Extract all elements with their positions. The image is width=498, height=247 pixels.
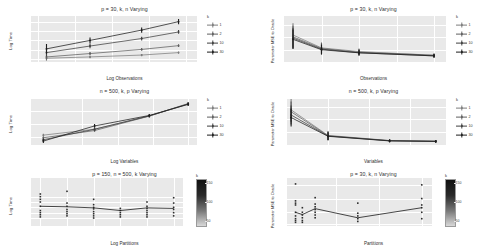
colorbar-legend: 15010050 — [445, 179, 471, 225]
legend-key — [207, 131, 218, 139]
series-line — [293, 39, 434, 56]
figure-grid: p = 30, k, n Varying Log Time Log Observ… — [0, 0, 498, 247]
plot-area: 40801200.00750.00500.00250.0000 — [287, 99, 446, 145]
x-axis-label: Observations — [249, 76, 498, 81]
legend-title: k — [207, 14, 224, 19]
legend-item[interactable]: 30 — [207, 131, 224, 140]
scatter-point — [120, 216, 122, 218]
x-axis-label: Partitions — [249, 241, 498, 246]
data-point — [94, 128, 96, 130]
series-line — [291, 112, 436, 142]
legend-key — [456, 104, 467, 112]
legend-title: k — [456, 97, 473, 102]
legend-key — [207, 104, 218, 112]
data-point — [42, 134, 44, 136]
data-point — [141, 38, 143, 40]
scatter-point — [421, 184, 423, 186]
legend-item-label: 10 — [469, 41, 473, 45]
legend-key — [456, 122, 467, 130]
data-point — [89, 45, 91, 47]
scatter-point — [93, 208, 95, 210]
scatter-point — [302, 217, 304, 219]
colorbar-tick-label: 50 — [456, 219, 460, 223]
scatter-point — [295, 204, 297, 206]
data-point — [327, 135, 329, 137]
legend-point-swatch — [211, 134, 213, 136]
scatter-point — [66, 213, 68, 215]
legend-point-swatch — [211, 125, 213, 127]
legend-item[interactable]: 1 — [207, 104, 224, 113]
colorbar-title: k — [445, 173, 447, 178]
scatter-point — [295, 215, 297, 217]
legend-item[interactable]: 1 — [456, 104, 473, 113]
panel-title: n = 500, k, p Varying — [249, 88, 498, 94]
scatter-point — [357, 215, 359, 217]
data-point — [435, 140, 437, 142]
data-point — [178, 21, 180, 23]
legend-item[interactable]: 10 — [207, 39, 224, 48]
plot-area: 25050075010000.0060.0040.002 — [284, 16, 446, 62]
legend-item[interactable]: 2 — [207, 30, 224, 39]
scatter-point — [93, 213, 95, 215]
legend-item-label: 30 — [220, 50, 224, 54]
data-point — [94, 125, 96, 127]
legend-item-label: 10 — [220, 124, 224, 128]
scatter-point — [314, 211, 316, 213]
legend-item[interactable]: 2 — [456, 113, 473, 122]
scatter-point — [314, 203, 316, 205]
scatter-point — [173, 215, 175, 217]
panel-mse-vs-observations: p = 30, k, n Varying Parameter MSE to Or… — [249, 0, 498, 82]
legend-item-label: 30 — [469, 50, 473, 54]
legend-item-label: 1 — [469, 23, 471, 27]
series-overlay — [284, 16, 446, 62]
data-point — [290, 117, 292, 119]
scatter-point — [66, 215, 68, 217]
colorbar-strip — [445, 179, 456, 227]
legend-item[interactable]: 10 — [207, 122, 224, 131]
legend-item[interactable]: 2 — [207, 113, 224, 122]
legend-item[interactable]: 10 — [456, 39, 473, 48]
legend-item[interactable]: 30 — [456, 131, 473, 140]
legend-item[interactable]: 30 — [456, 48, 473, 57]
scatter-point — [314, 206, 316, 208]
x-axis-label: Log Observations — [0, 76, 249, 81]
scatter-point — [173, 212, 175, 214]
data-point — [433, 55, 435, 57]
legend-key — [207, 39, 218, 47]
scatter-point — [173, 209, 175, 211]
scatter-point — [146, 216, 148, 218]
scatter-point — [66, 191, 68, 193]
legend-point-swatch — [211, 33, 213, 35]
scatter-point — [66, 209, 68, 211]
legend-item-label: 2 — [469, 115, 471, 119]
plot-area: 2345876 — [31, 99, 197, 145]
data-point — [389, 140, 391, 142]
scatter-point — [120, 214, 122, 216]
scatter-point — [120, 208, 122, 210]
scatter-point — [302, 211, 304, 213]
legend-item[interactable]: 2 — [456, 30, 473, 39]
scatter-point — [40, 216, 42, 218]
colorbar-tick-label: 150 — [456, 181, 462, 185]
legend: k 121030 — [207, 14, 224, 57]
colorbar-tick-mark — [205, 183, 207, 184]
legend-item[interactable]: 30 — [207, 48, 224, 57]
legend-point-swatch — [460, 42, 462, 44]
colorbar-tick-mark — [454, 183, 456, 184]
colorbar-tick-mark — [205, 221, 207, 222]
legend-item[interactable]: 10 — [456, 122, 473, 131]
legend-item-label: 2 — [220, 32, 222, 36]
scatter-point — [302, 207, 304, 209]
panel-title: n = 500, k, p Varying — [0, 88, 249, 94]
legend-key — [207, 30, 218, 38]
data-point — [141, 54, 143, 56]
legend-item[interactable]: 1 — [207, 21, 224, 30]
scatter-point — [295, 183, 297, 185]
panel-mse-vs-partitions: p = 30, k, n Varying Parameter MSE to Or… — [249, 165, 498, 247]
scatter-point — [421, 204, 423, 206]
scatter-point — [146, 205, 148, 207]
x-axis-label: Log Partitions — [0, 241, 249, 246]
scatter-point — [314, 214, 316, 216]
legend-item[interactable]: 1 — [456, 21, 473, 30]
series-line — [46, 46, 178, 57]
